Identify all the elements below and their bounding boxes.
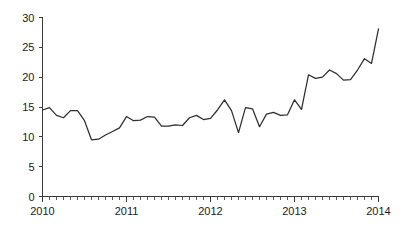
y-axis [39, 18, 43, 197]
x-axis [43, 197, 379, 202]
y-tick-label: 25 [22, 41, 34, 53]
y-tick-label: 15 [22, 101, 34, 113]
y-tick-label: 10 [22, 131, 34, 143]
x-tick-label: 2012 [198, 205, 222, 217]
chart-canvas: 051015202530 20102011201220132014 [0, 0, 404, 231]
x-tick-label: 2014 [366, 205, 390, 217]
x-tick-label: 2010 [30, 205, 54, 217]
y-tick-label: 0 [28, 191, 34, 203]
y-tick-labels: 051015202530 [22, 12, 34, 203]
x-tick-label: 2013 [282, 205, 306, 217]
line-chart: 051015202530 20102011201220132014 [0, 0, 404, 231]
x-tick-labels: 20102011201220132014 [30, 205, 390, 217]
data-line-1 [43, 29, 379, 140]
x-tick-label: 2011 [115, 205, 139, 217]
y-tick-label: 20 [22, 71, 34, 83]
y-tick-label: 30 [22, 12, 34, 24]
y-tick-label: 5 [28, 161, 34, 173]
data-series-group [43, 29, 379, 140]
